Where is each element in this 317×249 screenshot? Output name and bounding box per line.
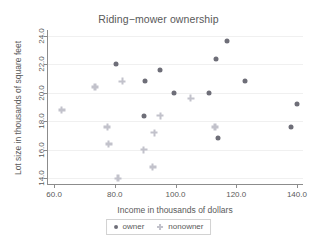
gridline xyxy=(48,121,303,122)
y-axis-label: Lot size in thousands of square feet xyxy=(12,30,24,185)
x-axis-tick xyxy=(297,184,298,188)
data-point-nonowner xyxy=(104,123,111,130)
data-point-owner xyxy=(288,124,293,129)
y-axis-tick-label: 24.0 xyxy=(38,36,47,52)
data-point-nonowner xyxy=(92,84,99,91)
data-point-nonowner xyxy=(211,123,218,130)
plot-area: 60.080.0100.0120.0140.014.016.018.020.02… xyxy=(47,30,303,185)
legend-item-owner[interactable]: owner xyxy=(114,222,145,231)
data-point-owner xyxy=(158,67,163,72)
data-point-nonowner xyxy=(105,141,112,148)
legend: ownernonowner xyxy=(106,219,212,235)
x-axis-tick-label: 80.0 xyxy=(107,190,123,199)
gridline xyxy=(48,64,303,65)
data-point-nonowner xyxy=(114,175,121,182)
x-axis-tick xyxy=(115,184,116,188)
owner-marker-icon xyxy=(114,225,118,229)
data-point-nonowner xyxy=(149,163,156,170)
gridline xyxy=(48,150,303,151)
x-axis-tick xyxy=(176,184,177,188)
x-axis-tick-label: 140.0 xyxy=(287,190,307,199)
y-axis-tick-label: 16.0 xyxy=(38,150,47,166)
data-point-owner xyxy=(206,90,211,95)
data-point-owner xyxy=(141,113,146,118)
data-point-owner xyxy=(114,62,119,67)
x-axis-tick xyxy=(54,184,55,188)
gridline xyxy=(48,36,303,37)
data-point-nonowner xyxy=(187,95,194,102)
legend-label: owner xyxy=(123,222,145,231)
data-point-nonowner xyxy=(140,146,147,153)
gridline xyxy=(48,178,303,179)
x-axis-tick-label: 120.0 xyxy=(226,190,246,199)
data-point-owner xyxy=(143,79,148,84)
x-axis-tick xyxy=(236,184,237,188)
y-axis-tick-label: 20.0 xyxy=(38,93,47,109)
data-point-nonowner xyxy=(58,106,65,113)
data-point-owner xyxy=(216,136,221,141)
x-axis-tick-label: 100.0 xyxy=(165,190,185,199)
data-point-nonowner xyxy=(119,78,126,85)
nonowner-marker-icon xyxy=(157,224,163,230)
y-axis-label-text: Lot size in thousands of square feet xyxy=(13,40,23,174)
data-point-owner xyxy=(243,79,248,84)
legend-label: nonowner xyxy=(168,222,203,231)
data-point-nonowner xyxy=(151,129,158,136)
y-axis-tick-label: 22.0 xyxy=(38,64,47,80)
x-axis-label: Income in thousands of dollars xyxy=(47,205,303,215)
x-axis-tick-label: 60.0 xyxy=(46,190,62,199)
data-point-owner xyxy=(225,39,230,44)
y-axis-tick-label: 14.0 xyxy=(38,178,47,194)
data-point-nonowner xyxy=(157,112,164,119)
data-point-owner xyxy=(171,90,176,95)
scatter-plot-figure: Riding−mower ownership 60.080.0100.0120.… xyxy=(0,0,317,249)
legend-item-nonowner[interactable]: nonowner xyxy=(157,222,203,231)
data-point-owner xyxy=(214,56,219,61)
data-point-owner xyxy=(294,102,299,107)
page-title: Riding−mower ownership xyxy=(0,13,317,25)
y-axis-tick-label: 18.0 xyxy=(38,121,47,137)
